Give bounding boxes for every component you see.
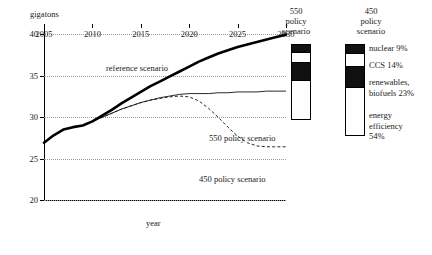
bar-450-segment-ccs — [346, 53, 364, 66]
y-tick-20 — [40, 200, 44, 201]
bar-450-header-line2: policy — [341, 16, 401, 26]
bar-550-segment-renewables — [292, 62, 310, 79]
label-550-policy-scenario: 550 policy scenario — [209, 134, 276, 143]
legend-item-efficiency: energy efficiency 54% — [369, 110, 403, 142]
bar-450-header-line1: 450 — [341, 6, 401, 16]
legend-efficiency-line2: efficiency — [369, 121, 403, 132]
bar-450-segment-renewables — [346, 66, 364, 87]
bar-550-header-line2: policy — [266, 16, 326, 26]
y-tick-label-30: 30 — [12, 113, 38, 122]
bar-450-segment-efficiency — [346, 87, 364, 135]
series-reference-scenario — [44, 35, 286, 143]
stacked-bar-550 — [291, 44, 311, 120]
bar-550-segment-nuclear — [292, 45, 310, 52]
legend-renewables-line1: renewables, — [369, 77, 414, 88]
stacked-bar-450 — [345, 44, 365, 136]
legend-item-renewables: renewables, biofuels 23% — [369, 77, 414, 98]
bar-450-segment-nuclear — [346, 45, 364, 53]
chart-figure: gigatons 40 35 30 25 20 2005 2010 2015 2… — [0, 0, 432, 255]
y-tick-label-35: 35 — [12, 72, 38, 81]
bar-450-header: 450 policy scenario — [341, 6, 401, 36]
legend-item-ccs: CCS 14% — [369, 60, 403, 71]
label-450-policy-scenario: 450 policy scenario — [199, 175, 266, 184]
plot-area: 40 35 30 25 20 2005 2010 2015 2020 2025 … — [44, 24, 286, 200]
gridline-20 — [44, 200, 286, 201]
label-reference-scenario: reference scenario — [106, 64, 168, 73]
y-tick-label-25: 25 — [12, 155, 38, 164]
bar-550-header: 550 policy scenario — [266, 6, 326, 36]
x-axis-title: year — [146, 218, 161, 228]
bar-550-header-line1: 550 — [266, 6, 326, 16]
legend-item-nuclear: nuclear 9% — [369, 43, 407, 54]
legend-efficiency-line1: energy — [369, 110, 403, 121]
bar-550-header-line3: scenario — [266, 26, 326, 36]
bar-450-header-line3: scenario — [341, 26, 401, 36]
y-axis-title: gigatons — [30, 9, 59, 19]
y-tick-label-20: 20 — [12, 196, 38, 205]
bar-550-segment-ccs — [292, 52, 310, 63]
legend-renewables-line2: biofuels 23% — [369, 88, 414, 99]
legend-efficiency-line3: 54% — [369, 131, 403, 142]
bar-550-segment-efficiency — [292, 80, 310, 119]
